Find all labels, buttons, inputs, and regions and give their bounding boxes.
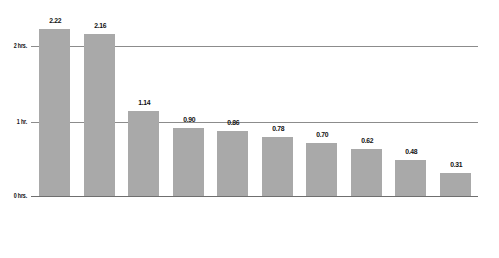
bar-value-label: 0.31	[437, 160, 475, 169]
bar-chart: 2 hrs. 1 hr. 0 hrs. 2.22 takingclass 2.1…	[0, 0, 499, 258]
bar-value-label: 2.22	[36, 16, 74, 25]
bar[interactable]	[351, 149, 382, 196]
bar-value-label: 0.48	[392, 147, 430, 156]
bar[interactable]	[84, 34, 115, 196]
bar-value-label: 0.90	[170, 115, 208, 124]
bar[interactable]	[395, 160, 426, 196]
bar-value-label: 2.16	[81, 21, 119, 30]
bar[interactable]	[173, 128, 204, 196]
bar-value-label: 1.14	[125, 98, 163, 107]
bar-value-label: 0.78	[259, 124, 297, 133]
plot-area: 2 hrs. 1 hr. 0 hrs. 2.22 takingclass 2.1…	[0, 0, 499, 258]
bar-value-label: 0.86	[214, 118, 252, 127]
bar[interactable]	[39, 29, 70, 196]
bar[interactable]	[217, 131, 248, 196]
bar[interactable]	[128, 111, 159, 196]
bar[interactable]	[262, 137, 293, 196]
bars-layer: 2.22 takingclass 2.16 television 1.14 wo…	[0, 0, 499, 258]
bar[interactable]	[306, 143, 337, 196]
bar[interactable]	[440, 173, 471, 196]
bar-value-label: 0.70	[303, 130, 341, 139]
bar-value-label: 0.62	[348, 136, 386, 145]
